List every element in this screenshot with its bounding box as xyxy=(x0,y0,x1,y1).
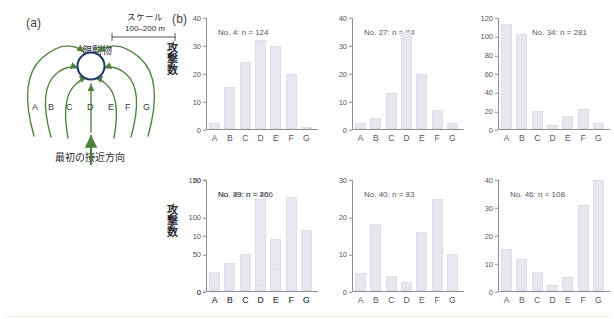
x-axis-tick-label: C xyxy=(238,295,252,305)
bar-chart-7: No. 49: n = 4001020ABCDEFG xyxy=(176,170,322,319)
bar-d xyxy=(547,285,558,291)
bar-slot xyxy=(354,180,368,291)
prey-animal-circle xyxy=(78,53,105,80)
chart-row-top: 攻撃数No. 4: n = 124010203040ABCDEFGNo. 27:… xyxy=(176,8,614,168)
x-axis-tick-label: B xyxy=(515,295,529,305)
bar-e xyxy=(562,116,573,129)
x-axis-tick-label: G xyxy=(445,133,459,143)
bar-slot xyxy=(500,18,514,129)
bar-a xyxy=(209,123,220,129)
y-axis-tick: 30 xyxy=(485,204,498,212)
bar-group xyxy=(353,18,460,129)
bar-group xyxy=(207,180,314,291)
x-axis-tick-label: E xyxy=(269,295,283,305)
bar-d xyxy=(547,125,558,129)
bar-g xyxy=(301,230,312,291)
x-axis-tick-label: C xyxy=(238,133,252,143)
y-axis-tick: 30 xyxy=(339,176,352,184)
bar-slot xyxy=(415,18,429,129)
panel-b-charts: 攻撃数No. 4: n = 124010203040ABCDEFGNo. 27:… xyxy=(176,0,614,319)
x-axis-tick-label: F xyxy=(430,133,444,143)
x-axis-labels: ABCDEFG xyxy=(353,130,460,143)
x-axis-tick-label: A xyxy=(208,295,222,305)
bar-slot xyxy=(561,18,575,129)
y-axis-tick: 120 xyxy=(480,14,498,22)
y-axis-tick: 20 xyxy=(339,70,352,78)
direction-letter-b: B xyxy=(48,102,54,112)
plot-area: 020406080100120ABCDEFG xyxy=(498,18,606,130)
bar-slot xyxy=(299,180,313,291)
bar-group xyxy=(499,180,606,291)
bar-slot xyxy=(269,180,283,291)
x-axis-tick-label: D xyxy=(399,295,413,305)
bar-slot xyxy=(576,180,590,291)
bar-slot xyxy=(284,18,298,129)
y-axis-tick: 40 xyxy=(485,89,498,97)
x-axis-tick-label: F xyxy=(284,295,298,305)
x-axis-tick-label: F xyxy=(576,133,590,143)
bar-slot xyxy=(223,18,237,129)
x-axis-labels: ABCDEFG xyxy=(499,130,606,143)
y-axis-tick: 0 xyxy=(489,288,498,296)
bar-b xyxy=(516,34,527,129)
bar-a xyxy=(355,123,366,129)
bar-slot xyxy=(238,180,252,291)
bar-f xyxy=(286,74,297,130)
direction-letter-f: F xyxy=(125,102,131,112)
x-axis-tick-label: E xyxy=(561,295,575,305)
bar-slot xyxy=(253,18,267,129)
x-axis-tick-label: E xyxy=(415,295,429,305)
direction-letter-c: C xyxy=(66,102,73,112)
x-axis-tick-label: F xyxy=(576,295,590,305)
bar-slot xyxy=(515,180,529,291)
x-axis-tick-label: G xyxy=(591,133,605,143)
bar-slot xyxy=(223,180,237,291)
bar-g xyxy=(447,123,458,129)
x-axis-tick-label: D xyxy=(545,295,559,305)
bar-b xyxy=(370,118,381,129)
bar-slot xyxy=(430,18,444,129)
bar-slot xyxy=(561,180,575,291)
bar-slot xyxy=(530,18,544,129)
x-axis-tick-label: C xyxy=(384,133,398,143)
x-axis-tick-label: E xyxy=(561,133,575,143)
bar-b xyxy=(516,259,527,291)
x-axis-tick-label: B xyxy=(223,295,237,305)
bar-slot xyxy=(415,180,429,291)
y-axis-tick: 30 xyxy=(339,42,352,50)
bar-e xyxy=(416,74,427,130)
x-axis-tick-label: G xyxy=(299,295,313,305)
bar-slot xyxy=(354,18,368,129)
y-axis-tick: 10 xyxy=(193,98,206,106)
x-axis-tick-label: A xyxy=(500,295,514,305)
x-axis-tick-label: C xyxy=(530,133,544,143)
bar-e xyxy=(270,269,281,291)
bar-b xyxy=(224,263,235,291)
x-axis-tick-label: B xyxy=(369,133,383,143)
y-axis-tick: 20 xyxy=(485,232,498,240)
bar-slot xyxy=(545,18,559,129)
y-axis-tick: 40 xyxy=(485,176,498,184)
bar-slot xyxy=(369,180,383,291)
bar-group xyxy=(207,18,314,129)
plot-area: 0102030ABCDEFG xyxy=(352,180,460,292)
plot-area: 01020ABCDEFG xyxy=(206,180,314,292)
y-axis-tick: 10 xyxy=(339,98,352,106)
direction-letter-e: E xyxy=(108,102,114,112)
bar-g xyxy=(301,127,312,129)
x-axis-tick-label: F xyxy=(284,133,298,143)
bar-chart-1: 攻撃数No. 4: n = 124010203040ABCDEFG xyxy=(176,8,322,160)
bar-slot xyxy=(369,18,383,129)
bar-slot xyxy=(545,180,559,291)
bar-c xyxy=(240,285,251,291)
x-axis-tick-label: A xyxy=(354,133,368,143)
y-axis-tick: 0 xyxy=(489,126,498,134)
bar-c xyxy=(386,276,397,291)
plot-area: 010203040ABCDEFG xyxy=(352,18,460,130)
x-axis-tick-label: E xyxy=(269,133,283,143)
x-axis-tick-label: D xyxy=(545,133,559,143)
bar-c xyxy=(386,93,397,129)
bar-f xyxy=(578,109,589,129)
bar-group xyxy=(499,18,606,129)
bar-slot xyxy=(515,18,529,129)
